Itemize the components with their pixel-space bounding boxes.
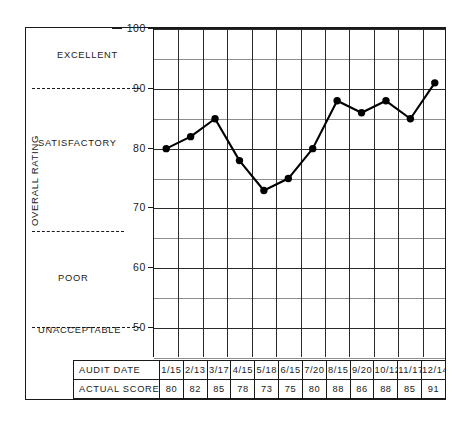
data-point-marker (187, 133, 194, 140)
data-point-marker (163, 145, 170, 152)
table-cell: 9/20 (350, 361, 374, 380)
audit-data-table: AUDIT DATE1/152/133/174/155/186/157/208/… (73, 360, 446, 399)
band-label-poor: POOR (58, 273, 88, 283)
table-row: AUDIT DATE1/152/133/174/155/186/157/208/… (74, 361, 446, 380)
band-divider-1 (32, 231, 124, 232)
table-cell: 5/18 (255, 361, 279, 380)
table-cell: 4/15 (231, 361, 255, 380)
band-label-excellent: EXCELLENT (57, 50, 118, 60)
table-cell: 8/15 (326, 361, 350, 380)
table-cell: 75 (279, 380, 303, 399)
data-point-marker (309, 145, 316, 152)
table-cell: 88 (326, 380, 350, 399)
y-axis-top-leader (112, 28, 122, 29)
plot-area (153, 28, 446, 357)
data-point-marker (407, 115, 414, 122)
data-point-marker (358, 109, 365, 116)
table-cell: 85 (398, 380, 422, 399)
table-cell: 6/15 (279, 361, 303, 380)
table-cell: 78 (231, 380, 255, 399)
table-cell: 2/13 (183, 361, 207, 380)
table-cell: 10/12 (374, 361, 398, 380)
table-row-header: AUDIT DATE (74, 361, 160, 380)
score-line-series (154, 29, 447, 358)
table-row-header: ACTUAL SCORE (74, 380, 160, 399)
y-axis-tick-label: 80 (116, 142, 146, 154)
y-axis-tick-label: 90 (116, 82, 146, 94)
table-cell: 73 (255, 380, 279, 399)
y-axis-tick-label: 60 (116, 261, 146, 273)
data-point-marker (260, 187, 267, 194)
y-axis-tick-label: 70 (116, 201, 146, 213)
data-point-marker (333, 97, 340, 104)
data-point-marker (236, 157, 243, 164)
data-point-marker (382, 97, 389, 104)
table-cell: 91 (422, 380, 446, 399)
gridline-minor (154, 358, 445, 359)
data-point-marker (431, 79, 438, 86)
table-cell: 12/14 (422, 361, 446, 380)
table-cell: 1/15 (160, 361, 184, 380)
table-row: ACTUAL SCORE808285787375808886888591 (74, 380, 446, 399)
table-cell: 7/20 (302, 361, 326, 380)
data-point-marker (285, 175, 292, 182)
table-cell: 3/17 (207, 361, 231, 380)
chart-page: OVERALL RATING EXCELLENTSATISFACTORYPOOR… (0, 0, 467, 424)
table-cell: 80 (302, 380, 326, 399)
table-cell: 82 (183, 380, 207, 399)
band-label-satisfactory: SATISFACTORY (38, 138, 117, 148)
score-line (166, 83, 435, 191)
table-cell: 85 (207, 380, 231, 399)
table-cell: 80 (160, 380, 184, 399)
table-cell: 88 (374, 380, 398, 399)
y-axis-tick-label: 50 (116, 321, 146, 333)
table-cell: 86 (350, 380, 374, 399)
data-point-marker (211, 115, 218, 122)
table-cell: 11/17 (398, 361, 422, 380)
